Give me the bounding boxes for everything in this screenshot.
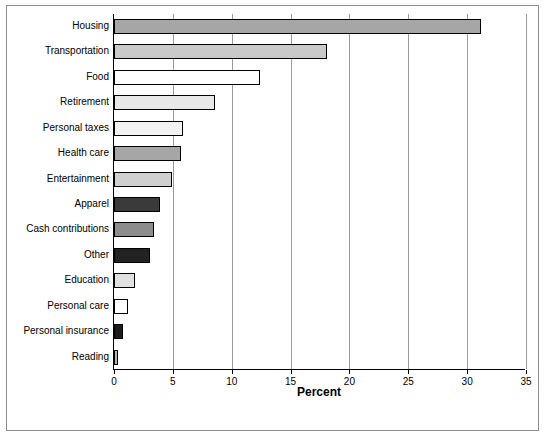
x-tick <box>408 370 409 374</box>
bar <box>114 121 183 136</box>
bar-row: Personal insurance <box>114 319 525 344</box>
category-label: Personal care <box>47 299 109 313</box>
bar-row: Other <box>114 243 525 268</box>
bar-row: Education <box>114 268 525 293</box>
bar <box>114 299 128 314</box>
category-label: Transportation <box>45 44 109 58</box>
bar <box>114 44 327 59</box>
gridline-35 <box>526 14 527 369</box>
bar-row: Retirement <box>114 90 525 115</box>
x-axis-title: Percent <box>113 385 525 399</box>
x-tick <box>232 370 233 374</box>
bar-row: Cash contributions <box>114 217 525 242</box>
bar-row: Housing <box>114 14 525 39</box>
category-label: Housing <box>72 19 109 33</box>
bar <box>114 273 135 288</box>
x-tick <box>467 370 468 374</box>
x-tick <box>349 370 350 374</box>
bar-row: Entertainment <box>114 167 525 192</box>
bar-row: Personal care <box>114 294 525 319</box>
category-label: Food <box>86 70 109 84</box>
bar <box>114 146 181 161</box>
bar-row: Personal taxes <box>114 116 525 141</box>
category-label: Reading <box>72 350 109 364</box>
bar <box>114 172 172 187</box>
bar-row: Reading <box>114 345 525 370</box>
category-label: Cash contributions <box>26 222 109 236</box>
bar-row: Transportation <box>114 39 525 64</box>
bar <box>114 70 260 85</box>
category-label: Apparel <box>75 197 109 211</box>
plot-area: HousingTransportationFoodRetirementPerso… <box>113 14 525 370</box>
bar <box>114 350 118 365</box>
category-label: Retirement <box>60 95 109 109</box>
category-label: Health care <box>58 146 109 160</box>
bar-row: Health care <box>114 141 525 166</box>
x-tick <box>526 370 527 374</box>
bar <box>114 248 150 263</box>
category-label: Personal taxes <box>43 121 109 135</box>
bar <box>114 19 481 34</box>
bar <box>114 95 215 110</box>
bar-rows: HousingTransportationFoodRetirementPerso… <box>114 14 525 369</box>
bar-chart: HousingTransportationFoodRetirementPerso… <box>0 0 546 437</box>
bar <box>114 222 154 237</box>
x-tick <box>173 370 174 374</box>
bar-row: Apparel <box>114 192 525 217</box>
x-tick <box>114 370 115 374</box>
x-tick <box>291 370 292 374</box>
bar <box>114 324 123 339</box>
bar <box>114 197 160 212</box>
category-label: Entertainment <box>47 172 109 186</box>
category-label: Personal insurance <box>23 324 109 338</box>
category-label: Other <box>84 248 109 262</box>
category-label: Education <box>65 273 109 287</box>
bar-row: Food <box>114 65 525 90</box>
